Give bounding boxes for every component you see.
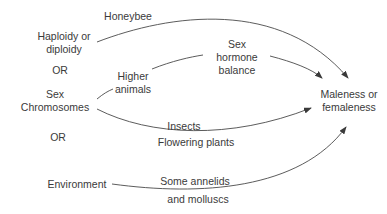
maleness-or-femaleness-node: Maleness or femaleness xyxy=(316,88,382,114)
edge-label-and-molluscs: and molluscs xyxy=(160,193,236,206)
edge-label-flowering-plants: Flowering plants xyxy=(152,136,240,149)
arrow-hormone-to-target xyxy=(270,56,322,78)
hormone-line2: hormone xyxy=(205,51,269,64)
sex-hormone-balance-node: Sex hormone balance xyxy=(205,38,269,77)
sex-chromosomes-line1: Sex xyxy=(15,88,95,101)
or-separator-1: OR xyxy=(50,64,70,77)
higher-animals-line2: animals xyxy=(112,83,154,96)
target-line2: femaleness xyxy=(316,101,382,114)
edge-label-insects: Insects xyxy=(160,120,208,133)
haploidy-or-diploidy-node: Haploidy or diploidy xyxy=(33,30,95,56)
haploidy-line2: diploidy xyxy=(33,43,95,56)
or-separator-2: OR xyxy=(48,131,68,144)
hormone-line3: balance xyxy=(205,64,269,77)
sex-determination-diagram: Haploidy or diploidy OR Sex Chromosomes … xyxy=(0,0,387,214)
line-chromosomes-to-higher-animals xyxy=(97,89,113,99)
edge-label-higher-animals: Higher animals xyxy=(112,70,154,96)
environment-node: Environment xyxy=(44,178,110,191)
sex-chromosomes-line2: Chromosomes xyxy=(15,101,95,114)
haploidy-line1: Haploidy or xyxy=(33,30,95,43)
edge-label-some-annelids: Some annelids xyxy=(155,175,235,188)
sex-chromosomes-node: Sex Chromosomes xyxy=(15,88,95,114)
hormone-line1: Sex xyxy=(205,38,269,51)
target-line1: Maleness or xyxy=(316,88,382,101)
line-higher-animals-to-hormone xyxy=(152,55,203,69)
higher-animals-line1: Higher xyxy=(112,70,154,83)
edge-label-honeybee: Honeybee xyxy=(100,10,156,23)
